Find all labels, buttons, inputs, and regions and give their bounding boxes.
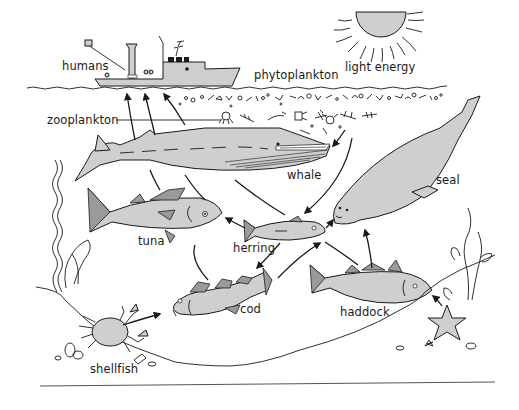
label-shellfish: shellfish [90,364,138,376]
seaweed-left-icon [53,160,91,292]
sea-surface-line [27,86,447,89]
haddock-illustration [310,260,432,303]
crab-icon [55,304,156,366]
label-cod: cod [240,304,261,316]
label-haddock: haddock [340,307,390,319]
phytoplankton-particles [179,93,442,107]
label-zooplankton: zooplankton [47,115,119,127]
label-herring: herring [233,243,275,255]
label-phytoplankton: phytoplankton [254,70,339,82]
seal-illustration [334,96,480,224]
label-whale: whale [287,170,322,182]
arrow-tuna-to-humans [145,94,155,135]
starfish-icon [396,305,476,350]
seaweed-right-icon [444,208,492,300]
arrow-starfish-to-haddock [433,296,442,306]
sun-icon [334,12,424,62]
food-web-diagram: humans phytoplankton light energy zoopla… [0,0,519,410]
label-humans: humans [62,61,109,73]
arrow-herring-to-seal [326,220,333,228]
arrow-haddock-to-seal [365,230,372,268]
bottom-rule [40,382,495,386]
herring-illustration [244,216,325,242]
label-seal: seal [436,175,460,187]
arrow-zooplankton-to-whale [333,130,345,146]
arrow-whale-to-humans [127,94,135,140]
label-tuna: tuna [138,236,165,248]
arrow-herring-to-tuna [226,218,245,228]
label-light-energy: light energy [345,62,415,74]
